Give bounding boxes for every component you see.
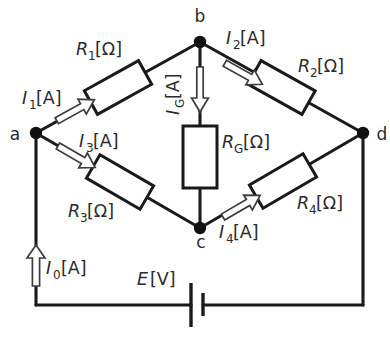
resistor-label-R3-symbol: R [68, 201, 80, 221]
resistor-R1 [84, 61, 151, 115]
current-label-I0-unit: [A] [61, 258, 87, 278]
resistor-label-R4: R 4 [Ω] [297, 193, 343, 217]
resistor-label-R2: R 2 [Ω] [298, 56, 344, 80]
resistor-RG [183, 126, 217, 188]
current-label-I2-symbol: I [226, 28, 231, 48]
node-label-b: b [195, 6, 206, 26]
current-label-IG-subscript: G [173, 99, 187, 108]
source-label-E-unit: [V] [150, 269, 176, 289]
current-label-I0-symbol: I [46, 258, 51, 278]
resistor-label-R2-symbol: R [298, 56, 310, 76]
current-label-I1-symbol: I [22, 88, 27, 108]
source-label-E: E [V] [137, 269, 176, 289]
current-label-I3-unit: [A] [93, 131, 119, 151]
current-label-IG: I G [A] [163, 73, 187, 115]
current-label-IG-unit: [A] [163, 73, 183, 99]
current-label-I4-unit: [A] [233, 222, 259, 242]
node-dot-d [357, 127, 369, 139]
current-label-I4-symbol: I [219, 222, 224, 242]
current-label-I4: I 4 [A] [219, 222, 259, 246]
resistor-label-R1-symbol: R [76, 39, 88, 59]
node-label-d: d [377, 124, 388, 144]
current-label-I0: I 0 [A] [46, 258, 87, 282]
resistor-label-R4-symbol: R [297, 193, 309, 213]
circuit-diagram-canvas: a b c d R 1 [Ω] R 2 [Ω] R 3 [Ω] R 4 [Ω] [0, 0, 390, 346]
resistor-label-R2-unit: [Ω] [317, 56, 344, 76]
resistor-label-R3: R 3 [Ω] [68, 201, 114, 225]
current-label-I2: I 2 [A] [226, 28, 266, 52]
resistor-label-R4-unit: [Ω] [316, 193, 343, 213]
resistor-label-RG: R G [Ω] [222, 132, 270, 156]
current-label-I1: I 1 [A] [22, 88, 62, 112]
current-label-I0-subscript: 0 [53, 268, 61, 282]
wheatstone-bridge-figure: a b c d R 1 [Ω] R 2 [Ω] R 3 [Ω] R 4 [Ω] [0, 0, 390, 346]
resistor-label-R1: R 1 [Ω] [76, 39, 122, 63]
current-arrow-IG [192, 67, 209, 112]
current-label-IG-symbol: I [163, 110, 183, 115]
current-label-I3-symbol: I [79, 131, 84, 151]
node-dot-a [30, 127, 42, 139]
resistor-label-R3-unit: [Ω] [87, 201, 114, 221]
node-label-c: c [196, 232, 205, 252]
node-dot-b [194, 36, 206, 48]
current-label-I3: I 3 [A] [79, 131, 119, 155]
node-label-a: a [10, 124, 20, 144]
resistor-label-R1-unit: [Ω] [95, 39, 122, 59]
resistor-label-RG-symbol: R [222, 132, 234, 152]
current-label-I1-unit: [A] [36, 88, 62, 108]
source-label-E-symbol: E [137, 269, 149, 289]
current-arrow-I0 [27, 245, 45, 286]
resistor-label-RG-subscript: G [234, 142, 243, 156]
current-label-I2-unit: [A] [240, 28, 266, 48]
resistor-label-RG-unit: [Ω] [243, 132, 270, 152]
